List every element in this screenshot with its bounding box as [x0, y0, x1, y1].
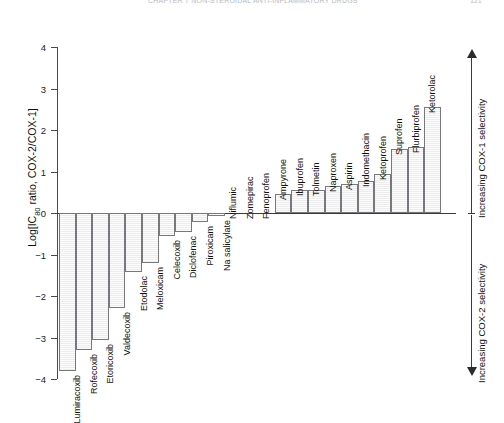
bar-label-piroxicam: Piroxicam [205, 226, 215, 266]
bar-label-niflumic: Niflumic [228, 187, 238, 219]
bar-label-ketoprofen: Ketoprofen [378, 136, 388, 180]
page-number: 121 [470, 0, 482, 4]
bar-label-etoricoxib: Etoricoxib [105, 344, 115, 384]
bar-label-tolmetin: Tolmetin [311, 163, 321, 197]
bar-label-etodolac: Etodolac [139, 276, 149, 311]
running-header: CHAPTER 7 NON-STEROIDAL ANTI-INFLAMMATOR… [0, 0, 504, 9]
y-tick-mark [51, 379, 57, 380]
bar-diclofenac [175, 213, 192, 232]
cox1-selectivity-label: Increasing COX-1 selectivity [476, 99, 487, 218]
bar-label-flurbiprofen: Flurbiprofen [411, 105, 421, 153]
cox2-selectivity-label: Increasing COX-2 selectivity [476, 264, 487, 383]
bar-rofecoxib [76, 213, 93, 350]
bar-label-ibuprofen: Ibuprofen [295, 158, 305, 196]
bar-label-ampyrone: Ampyrone [278, 159, 288, 200]
bar-suprofen [391, 149, 408, 213]
bar-label-indomethacin: Indomethacin [361, 133, 371, 187]
bar-label-naproxen: Naproxen [328, 153, 338, 192]
bar-label-rofecoxib: Rofecoxib [89, 354, 99, 394]
bar-meloxicam [142, 213, 159, 263]
bar-label-celecoxib: Celecoxib [172, 240, 182, 280]
bar-label-valdecoxib: Valdecoxib [122, 312, 132, 355]
arrow-down-icon [467, 367, 477, 376]
bar-label-ketorolac: Ketorolac [427, 75, 437, 113]
cox2-arrow-line [471, 215, 472, 367]
bar-label-zomepirac: Zomepirac [245, 176, 255, 219]
bar-label-meloxicam: Meloxicam [155, 267, 165, 310]
bar-label-suprofen: Suprofen [394, 118, 404, 155]
bar-label-lumiracoxib: Lumiracoxib [72, 375, 82, 423]
bar-piroxicam [192, 213, 209, 222]
running-header-text: CHAPTER 7 NON-STEROIDAL ANTI-INFLAMMATOR… [148, 0, 358, 4]
bar-etodolac [125, 213, 142, 272]
bar-lumiracoxib [59, 213, 76, 371]
bar-ketoprofen [374, 174, 391, 213]
bar-etoricoxib [92, 213, 109, 340]
bar-ketorolac [424, 107, 441, 213]
y-tick-label: −4 [6, 374, 46, 385]
y-axis-title: Log[IC80 ratio, COX-2/COX-1] [26, 83, 41, 273]
bar-label-fenoprofen: Fenoprofen [261, 173, 271, 219]
annotation-midtick [468, 213, 475, 214]
bar-label-aspirin: Aspirin [344, 162, 354, 190]
bar-series: LumiracoxibRofecoxibEtoricoxibValdecoxib… [57, 47, 456, 379]
bar-flurbiprofen [408, 147, 425, 213]
bar-celecoxib [159, 213, 176, 236]
bar-label-na-salicylate: Na salicylate [222, 220, 232, 271]
y-tick-label: −3 [6, 332, 46, 343]
selectivity-annotations: Increasing COX-1 selectivity Increasing … [463, 47, 504, 379]
y-tick-label: −2 [6, 291, 46, 302]
bar-na-salicylate [208, 213, 225, 216]
cox1-arrow-line [471, 57, 472, 213]
y-tick-label: 4 [6, 42, 46, 53]
bar-label-diclofenac: Diclofenac [188, 236, 198, 278]
bar-valdecoxib [109, 213, 126, 308]
